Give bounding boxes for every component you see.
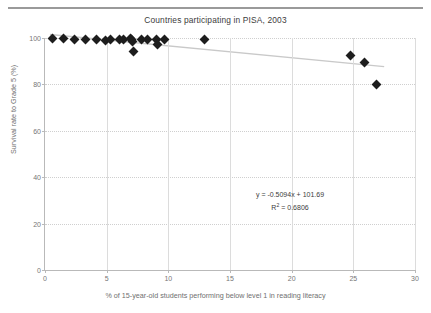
y-tick-label: 100: [29, 35, 41, 42]
r-value: = 0.6806: [279, 204, 308, 211]
y-tick-mark: [42, 38, 45, 39]
data-point-marker: [59, 34, 69, 44]
trendline-equation: y = -0.5094x + 101.69: [230, 190, 350, 200]
data-point-marker: [199, 34, 209, 44]
x-tick-label: 0: [43, 275, 47, 282]
x-tick-mark: [168, 270, 169, 273]
x-tick-mark: [45, 270, 46, 273]
y-tick-mark: [42, 224, 45, 225]
plot-area: 020406080100051015202530: [44, 38, 415, 271]
x-axis-label: % of 15-year-old students performing bel…: [0, 291, 431, 300]
y-axis-label: Survival rate to Grade 5 (%): [9, 65, 18, 154]
gridline-vertical: [353, 38, 354, 270]
x-tick-mark: [107, 270, 108, 273]
data-point-marker: [359, 57, 369, 67]
x-tick-label: 25: [349, 275, 357, 282]
y-tick-label: 0: [37, 267, 41, 274]
page-title: Countries participating in PISA, 2003: [0, 15, 431, 25]
trendline-r-squared: R2 = 0.6806: [230, 200, 350, 213]
data-point-marker: [47, 33, 57, 43]
y-tick-mark: [42, 84, 45, 85]
data-point-marker: [372, 80, 382, 90]
data-point-marker: [70, 34, 80, 44]
data-point-marker: [142, 35, 152, 45]
gridline-vertical: [107, 38, 108, 270]
y-tick-label: 40: [33, 174, 41, 181]
x-tick-mark: [230, 270, 231, 273]
gridline-vertical: [415, 38, 416, 270]
y-tick-label: 60: [33, 127, 41, 134]
data-point-marker: [129, 46, 139, 56]
x-tick-mark: [292, 270, 293, 273]
trendline-annotation: y = -0.5094x + 101.69 R2 = 0.6806: [230, 190, 350, 213]
x-tick-mark: [353, 270, 354, 273]
header-divider: [8, 7, 423, 9]
y-tick-label: 20: [33, 220, 41, 227]
y-tick-label: 80: [33, 81, 41, 88]
y-tick-mark: [42, 177, 45, 178]
gridline-vertical: [230, 38, 231, 270]
gridline-vertical: [292, 38, 293, 270]
x-tick-mark: [415, 270, 416, 273]
gridline-vertical: [168, 38, 169, 270]
y-tick-mark: [42, 131, 45, 132]
x-tick-label: 5: [105, 275, 109, 282]
data-point-marker: [81, 34, 91, 44]
x-tick-label: 20: [288, 275, 296, 282]
x-tick-label: 15: [226, 275, 234, 282]
x-tick-label: 30: [411, 275, 419, 282]
x-tick-label: 10: [164, 275, 172, 282]
